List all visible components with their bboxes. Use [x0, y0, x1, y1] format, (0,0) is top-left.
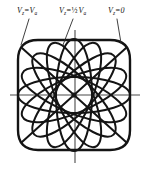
figure-canvas	[0, 0, 146, 170]
lissajous-figure: Vz=Va Vz=½ Va Vz=0	[0, 0, 146, 170]
center-point	[71, 92, 76, 97]
leader-line-vz-equals-zero	[117, 19, 121, 43]
